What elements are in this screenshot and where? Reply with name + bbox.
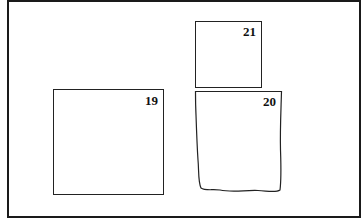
- box-20: [0, 0, 362, 218]
- box-20-label: 20: [263, 95, 276, 108]
